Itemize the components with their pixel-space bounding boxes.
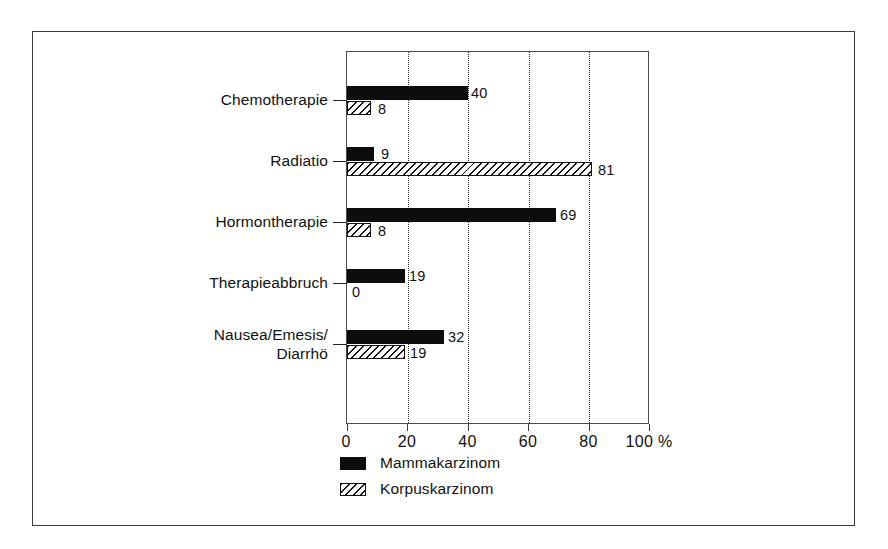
category-label-hormontherapie: Hormontherapie xyxy=(113,212,328,231)
xtick-mark-40 xyxy=(468,424,469,431)
bar-value-radiatio-korpuskarzinom: 81 xyxy=(598,163,615,177)
bar-value-hormontherapie-mammakarzinom: 69 xyxy=(560,208,577,222)
xtick-label-0: 0 xyxy=(316,433,376,451)
legend-label-mammakarzinom: Mammakarzinom xyxy=(380,454,500,472)
bar-value-nausea-korpuskarzinom: 19 xyxy=(410,346,427,360)
category-tick-nausea-emesis-diarrhoe xyxy=(333,344,347,345)
legend-swatch-solid-icon xyxy=(340,457,366,470)
category-tick-chemotherapie xyxy=(333,100,347,101)
xtick-mark-60 xyxy=(528,424,529,431)
bar-radiatio-mammakarzinom xyxy=(347,147,374,161)
bar-hormontherapie-korpuskarzinom xyxy=(347,223,371,237)
bar-value-radiatio-mammakarzinom: 9 xyxy=(381,147,389,161)
bar-group-nausea-emesis-diarrhoe: 32 19 xyxy=(347,330,650,359)
category-tick-therapieabbruch xyxy=(333,283,347,284)
bar-group-hormontherapie: 69 8 xyxy=(347,208,650,237)
bar-hormontherapie-mammakarzinom xyxy=(347,208,556,222)
category-tick-radiatio xyxy=(333,161,347,162)
bar-chart: Chemotherapie 40 8 Radiatio 9 81 Hormont… xyxy=(33,32,856,527)
legend-item-korpuskarzinom: Korpuskarzinom xyxy=(340,476,500,502)
chart-legend: Mammakarzinom Korpuskarzinom xyxy=(340,450,500,502)
bar-value-hormontherapie-korpuskarzinom: 8 xyxy=(378,224,386,238)
legend-item-mammakarzinom: Mammakarzinom xyxy=(340,450,500,476)
xtick-label-20: 20 xyxy=(377,433,437,451)
xtick-label-40: 40 xyxy=(438,433,498,451)
bar-nausea-mammakarzinom xyxy=(347,330,444,344)
bar-therapieabbruch-mammakarzinom xyxy=(347,269,405,283)
category-label-nausea-emesis-diarrhoe: Nausea/Emesis/ Diarrhö xyxy=(113,325,328,363)
category-label-chemotherapie: Chemotherapie xyxy=(113,90,328,109)
xtick-mark-20 xyxy=(407,424,408,431)
bar-value-chemotherapie-korpuskarzinom: 8 xyxy=(378,102,386,116)
xtick-label-60: 60 xyxy=(498,433,558,451)
xtick-mark-80 xyxy=(589,424,590,431)
xtick-mark-0 xyxy=(347,424,348,431)
bar-nausea-korpuskarzinom xyxy=(347,345,405,359)
bar-value-therapieabbruch-korpuskarzinom: 0 xyxy=(352,285,360,299)
legend-swatch-hatched-icon xyxy=(340,483,366,496)
bar-radiatio-korpuskarzinom xyxy=(347,162,592,176)
bar-chemotherapie-mammakarzinom xyxy=(347,86,468,100)
category-label-radiatio: Radiatio xyxy=(113,151,328,170)
bar-value-chemotherapie-mammakarzinom: 40 xyxy=(471,86,488,100)
category-label-therapieabbruch: Therapieabbruch xyxy=(113,273,328,292)
bar-value-therapieabbruch-mammakarzinom: 19 xyxy=(409,269,426,283)
bar-chemotherapie-korpuskarzinom xyxy=(347,101,371,115)
xtick-label-100-percent: 100 % xyxy=(619,433,679,451)
bar-group-chemotherapie: 40 8 xyxy=(347,86,650,115)
bar-group-therapieabbruch: 19 0 xyxy=(347,269,650,298)
bar-group-radiatio: 9 81 xyxy=(347,147,650,176)
category-tick-hormontherapie xyxy=(333,222,347,223)
legend-label-korpuskarzinom: Korpuskarzinom xyxy=(380,480,493,498)
xtick-mark-100 xyxy=(649,424,650,431)
xtick-label-80: 80 xyxy=(559,433,619,451)
bar-value-nausea-mammakarzinom: 32 xyxy=(448,330,465,344)
figure-frame: Chemotherapie 40 8 Radiatio 9 81 Hormont… xyxy=(32,31,855,526)
